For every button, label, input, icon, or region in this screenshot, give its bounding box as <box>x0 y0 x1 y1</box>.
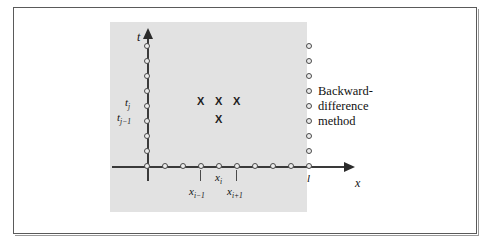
plot-panel-background <box>110 22 307 212</box>
x-tick-i-minus-1 <box>200 170 201 181</box>
stencil-x-mark-right: X <box>233 96 240 107</box>
grid-node-l5 <box>306 88 312 94</box>
grid-node-l6 <box>306 73 312 79</box>
grid-node-l7 <box>306 58 312 64</box>
grid-node-x9-endpoint <box>306 163 312 169</box>
grid-node-t8 <box>144 43 150 49</box>
x-tick-i-plus-1 <box>236 170 237 181</box>
x-label-i-minus-1-sub: i−1 <box>194 191 205 200</box>
right-arrow-icon <box>344 162 355 172</box>
grid-node-t7 <box>144 58 150 64</box>
x-axis-name: x <box>355 177 360 189</box>
grid-node-x2 <box>180 163 186 169</box>
t-label-j-sub: j <box>128 102 130 111</box>
grid-node-l3 <box>306 118 312 124</box>
grid-node-l2 <box>306 133 312 139</box>
annotation-difference: difference <box>318 99 368 114</box>
annotation-backward: Backward- <box>318 84 373 99</box>
grid-node-x8 <box>288 163 294 169</box>
grid-node-t5 <box>144 88 150 94</box>
x-label-i-plus-1: xi+1 <box>227 186 243 200</box>
grid-node-origin <box>144 163 150 169</box>
t-label-j: tj <box>125 97 130 111</box>
grid-node-t1 <box>144 148 150 154</box>
grid-node-x4 <box>216 163 222 169</box>
grid-node-t2 <box>144 133 150 139</box>
grid-node-x1 <box>162 163 168 169</box>
x-label-i-minus-1: xi−1 <box>189 186 205 200</box>
stencil-x-mark-left: X <box>197 96 204 107</box>
t-label-j-minus-1: tj−1 <box>117 112 131 126</box>
grid-node-x7 <box>270 163 276 169</box>
up-arrow-icon <box>143 28 153 39</box>
grid-node-x6 <box>252 163 258 169</box>
grid-node-x5 <box>234 163 240 169</box>
stencil-x-mark-center: X <box>215 96 222 107</box>
annotation-method: method <box>318 114 356 129</box>
grid-node-t6 <box>144 73 150 79</box>
grid-node-l1 <box>306 148 312 154</box>
grid-node-l8 <box>306 43 312 49</box>
grid-node-x3 <box>198 163 204 169</box>
stencil-x-mark-lower: X <box>215 114 222 125</box>
grid-node-l4 <box>306 103 312 109</box>
x-label-i-sub: i <box>220 177 222 186</box>
figure-root: t x X X X X tj tj−1 xi xi−1 xi+ <box>0 0 491 247</box>
endpoint-label-l: l <box>307 173 310 184</box>
x-label-i-plus-1-sub: i+1 <box>232 191 243 200</box>
t-label-j-minus-1-sub: j−1 <box>120 117 131 126</box>
x-label-i: xi <box>215 172 222 186</box>
grid-node-t3 <box>144 118 150 124</box>
t-axis-name: t <box>137 31 140 43</box>
grid-node-t4 <box>144 103 150 109</box>
